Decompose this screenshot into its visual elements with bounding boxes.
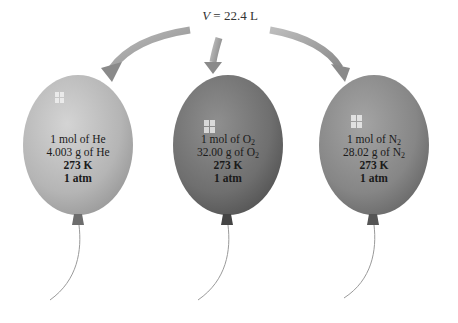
he-pressure: 1 atm [23, 172, 133, 185]
o2-mass: 32.00 g of O2 [173, 146, 283, 159]
n2-temperature: 273 K [319, 159, 429, 172]
n2-pressure: 1 atm [319, 172, 429, 185]
arrow-to-o2-icon [204, 38, 222, 74]
n2-moles-text: 1 mol of N [347, 133, 397, 145]
arrow-to-he-icon [101, 30, 190, 82]
o2-mass-text: 32.00 g of O [197, 146, 255, 158]
n2-mass-subscript: 2 [401, 151, 405, 160]
volume-symbol: V [202, 8, 210, 23]
balloon-n2-label: 1 mol of N2 28.02 g of N2 273 K 1 atm [319, 133, 429, 185]
balloon-o2 [173, 75, 283, 300]
n2-moles: 1 mol of N2 [319, 133, 429, 146]
o2-moles-text: 1 mol of O [201, 133, 251, 145]
he-temperature: 273 K [23, 159, 133, 172]
diagram-stage: V = 22.4 L 1 mol of He 4.003 g of He 273… [0, 0, 458, 323]
n2-mass: 28.02 g of N2 [319, 146, 429, 159]
n2-mass-text: 28.02 g of N [343, 146, 401, 158]
volume-value: = 22.4 L [210, 8, 258, 23]
o2-moles: 1 mol of O2 [173, 133, 283, 146]
o2-pressure: 1 atm [173, 172, 283, 185]
balloon-o2-label: 1 mol of O2 32.00 g of O2 273 K 1 atm [173, 133, 283, 185]
o2-temperature: 273 K [173, 159, 283, 172]
arrow-to-n2-icon [270, 30, 350, 82]
balloon-he-label: 1 mol of He 4.003 g of He 273 K 1 atm [23, 133, 133, 185]
balloon-he [23, 75, 133, 300]
he-moles: 1 mol of He [23, 133, 133, 146]
o2-mass-subscript: 2 [255, 151, 259, 160]
volume-label: V = 22.4 L [190, 8, 270, 24]
balloon-n2 [319, 75, 429, 298]
he-mass: 4.003 g of He [23, 146, 133, 159]
